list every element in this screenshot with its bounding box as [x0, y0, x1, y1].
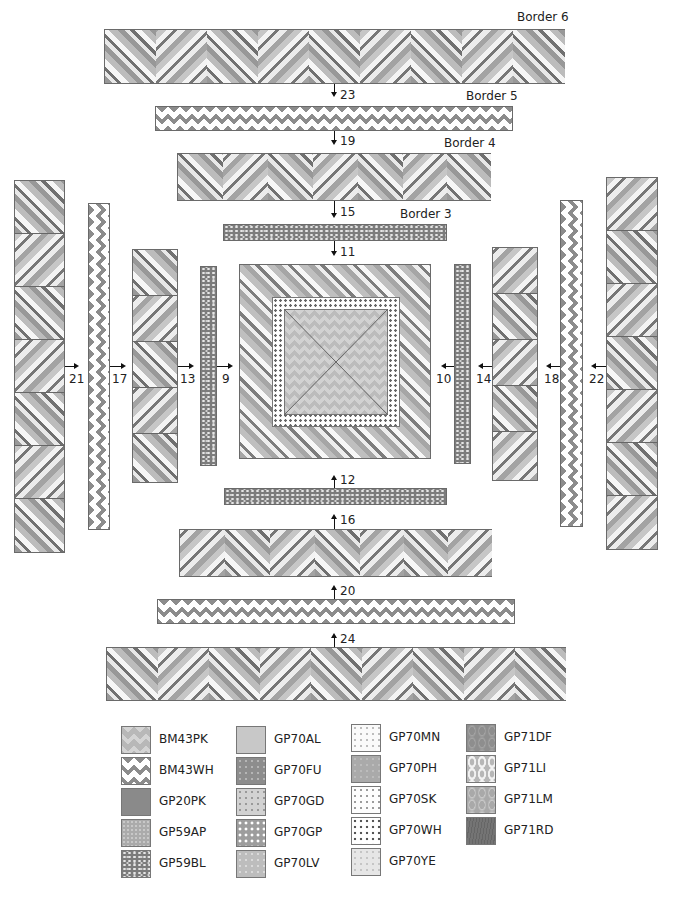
swatch-bm43wh [121, 757, 151, 785]
legend-label: GP70GD [274, 794, 324, 808]
border5-bottom [157, 599, 515, 624]
legend-label: GP71LI [504, 761, 546, 775]
arrow-right-icon [121, 363, 126, 369]
swatch-gp71rd [466, 817, 496, 845]
arrow-down-icon [331, 92, 337, 97]
step-19: 19 [340, 134, 355, 148]
swatch-gp70sk [351, 786, 381, 814]
legend-label: GP59BL [159, 856, 206, 870]
swatch-bm43pk [121, 726, 151, 754]
arrow-18-line [550, 366, 560, 367]
border4-right [492, 247, 538, 481]
border3-label: Border 3 [400, 207, 452, 221]
step-12: 12 [340, 473, 355, 487]
swatch-gp59ap [121, 819, 151, 847]
legend-label: GP71DF [504, 730, 552, 744]
swatch-gp70lv [236, 850, 266, 878]
center-chevron-square [284, 309, 388, 415]
swatch-gp70al [236, 726, 266, 754]
swatch-gp70ye [351, 848, 381, 876]
legend-label: GP70WH [389, 823, 442, 837]
diagonal-seam-lines [284, 309, 388, 415]
arrow-15-line [334, 201, 335, 213]
arrow-22-line [595, 366, 606, 367]
legend-label: GP70SK [389, 792, 436, 806]
step-22: 22 [589, 372, 604, 386]
arrow-11-line [334, 241, 335, 251]
border3-bottom [224, 488, 447, 505]
legend-label: GP59AP [159, 825, 206, 839]
arrow-20-line [334, 588, 335, 599]
arrow-24-line [334, 636, 335, 647]
legend-label: GP70AL [274, 732, 321, 746]
arrow-10-line [445, 366, 454, 367]
border5-label: Border 5 [466, 89, 518, 103]
center-block [239, 264, 431, 459]
border4-top [177, 153, 491, 201]
border3-top [223, 224, 447, 241]
legend-label: GP20PK [159, 794, 206, 808]
border6-bottom [106, 647, 566, 701]
border5-right [560, 200, 583, 527]
border6-right [606, 177, 658, 550]
step-23: 23 [340, 88, 355, 102]
legend-label: GP70GP [274, 825, 322, 839]
swatch-gp71df [466, 724, 496, 752]
border6-label: Border 6 [517, 10, 569, 24]
step-14: 14 [476, 372, 491, 386]
step-24: 24 [340, 632, 355, 646]
swatch-gp70fu [236, 757, 266, 785]
border4-bottom [179, 529, 492, 577]
step-18: 18 [544, 372, 559, 386]
step-17: 17 [112, 372, 127, 386]
step-16: 16 [340, 513, 355, 527]
legend-label: GP70FU [274, 763, 322, 777]
step-20: 20 [340, 584, 355, 598]
border4-label: Border 4 [444, 136, 496, 150]
step-9: 9 [222, 372, 230, 386]
step-11: 11 [340, 245, 355, 259]
arrow-right-icon [189, 363, 194, 369]
border5-top [155, 106, 513, 131]
step-15: 15 [340, 205, 355, 219]
step-10: 10 [436, 372, 451, 386]
border3-left [200, 266, 217, 466]
legend-label: BM43WH [159, 763, 214, 777]
legend-label: GP71RD [504, 823, 553, 837]
border6-top [104, 29, 565, 84]
arrow-right-icon [228, 363, 233, 369]
border4-left [132, 249, 178, 483]
swatch-gp70gp [236, 819, 266, 847]
legend-label: GP70YE [389, 854, 436, 868]
legend-label: BM43PK [159, 732, 208, 746]
border3-right [454, 264, 471, 464]
swatch-gp70ph [351, 755, 381, 783]
arrow-12-line [334, 478, 335, 488]
arrow-right-icon [74, 363, 79, 369]
swatch-gp70wh [351, 817, 381, 845]
swatch-gp20pk [121, 788, 151, 816]
swatch-gp71lm [466, 786, 496, 814]
legend-label: GP70LV [274, 856, 319, 870]
swatch-gp70mn [351, 724, 381, 752]
arrow-16-line [334, 517, 335, 529]
swatch-gp71li [466, 755, 496, 783]
legend-label: GP70PH [389, 761, 437, 775]
border5-left [88, 203, 110, 530]
legend-label: GP71LM [504, 792, 553, 806]
swatch-gp70gd [236, 788, 266, 816]
border6-left [14, 180, 65, 553]
arrow-down-icon [331, 213, 337, 218]
center-dotted-ring [272, 297, 400, 427]
step-13: 13 [180, 372, 195, 386]
step-21: 21 [69, 372, 84, 386]
arrow-down-icon [331, 140, 337, 145]
arrow-14-line [482, 366, 492, 367]
arrow-down-icon [331, 251, 337, 256]
legend-label: GP70MN [389, 730, 440, 744]
swatch-gp59bl [121, 850, 151, 878]
